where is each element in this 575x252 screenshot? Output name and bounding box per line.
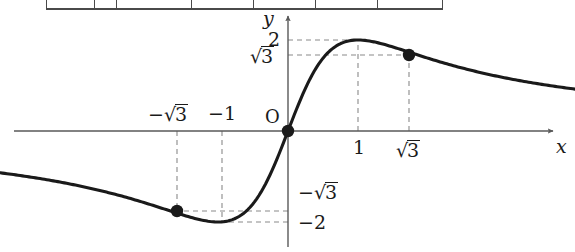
y-tick-neg-2: −2 <box>298 213 326 232</box>
radicand: 3 <box>325 182 338 202</box>
x-axis-label: x <box>556 137 567 156</box>
radical-sqrt3: √3 <box>314 182 338 202</box>
point-pos-sqrt3 <box>403 49 415 61</box>
y-tick-sqrt3: √3 <box>250 46 274 66</box>
radicand: 3 <box>175 104 188 124</box>
radical-sqrt3: √3 <box>396 140 420 160</box>
radical-sqrt3: √3 <box>164 104 188 124</box>
y-axis-label: y <box>263 9 274 28</box>
y-tick-neg-sqrt3: −√3 <box>298 182 338 202</box>
minus-sign: − <box>148 103 164 125</box>
x-tick-neg-sqrt3: −√3 <box>148 104 188 124</box>
x-tick-neg-1: −1 <box>208 104 236 123</box>
x-tick-1: 1 <box>353 138 365 157</box>
x-tick-sqrt3: √3 <box>396 140 420 160</box>
minus-sign: − <box>298 181 314 203</box>
point-neg-sqrt3 <box>171 205 183 217</box>
radicand: 3 <box>407 140 420 160</box>
origin-label: O <box>265 108 280 126</box>
origin-point <box>282 125 294 137</box>
graph-canvas <box>0 0 575 252</box>
math-figure: y x O 2 √3 −√3 −2 −√3 −1 1 √3 <box>0 0 575 252</box>
radicand: 3 <box>261 46 274 66</box>
radical-sqrt3: √3 <box>250 46 274 66</box>
